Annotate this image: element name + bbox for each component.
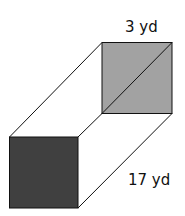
prism-diagram: 3 yd 17 yd	[0, 0, 185, 216]
edge-inner	[78, 114, 102, 138]
edge-top-left	[10, 43, 103, 138]
front-face	[10, 137, 79, 208]
prism-length-label: 17 yd	[128, 171, 170, 189]
edge-bottom-right	[78, 114, 172, 209]
side-length-label: 3 yd	[125, 18, 158, 36]
